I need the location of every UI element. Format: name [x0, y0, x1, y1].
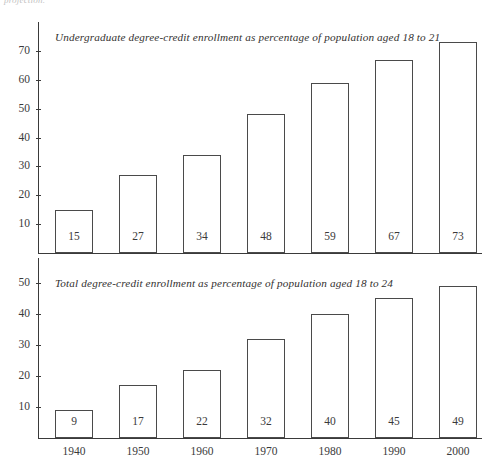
- y-tick-mark: [36, 345, 41, 346]
- bar-value-label: 67: [375, 231, 413, 243]
- y-axis-label: 40: [4, 308, 30, 320]
- y-axis-label: 40: [4, 132, 30, 144]
- y-axis-total: [38, 258, 39, 438]
- bar-value-label: 9: [55, 416, 93, 428]
- bar-value-label: 22: [183, 416, 221, 428]
- y-axis-label: 30: [4, 160, 30, 172]
- bar: [119, 385, 157, 438]
- y-tick-mark: [36, 376, 41, 377]
- y-tick-mark: [36, 80, 41, 81]
- figure-root: projection. Undergraduate degree-credit …: [0, 0, 497, 469]
- bar-value-label: 15: [55, 231, 93, 243]
- bar-value-label: 73: [439, 231, 477, 243]
- y-axis-label: 70: [4, 45, 30, 57]
- y-tick-mark: [36, 109, 41, 110]
- chart-title-total: Total degree-credit enrollment as percen…: [55, 277, 393, 289]
- y-tick-mark: [36, 314, 41, 315]
- bar-value-label: 34: [183, 231, 221, 243]
- chart-title-undergraduate: Undergraduate degree-credit enrollment a…: [55, 31, 440, 43]
- y-tick-mark: [36, 224, 41, 225]
- x-axis-label: 1990: [365, 446, 423, 458]
- y-tick-mark: [36, 51, 41, 52]
- y-tick-mark: [36, 166, 41, 167]
- y-axis-label: 20: [4, 370, 30, 382]
- y-tick-mark: [36, 195, 41, 196]
- x-axis-undergraduate: [38, 253, 482, 254]
- bar-value-label: 49: [439, 416, 477, 428]
- y-axis-label: 30: [4, 339, 30, 351]
- x-axis-label: 1950: [109, 446, 167, 458]
- bar-value-label: 40: [311, 416, 349, 428]
- y-axis-label: 10: [4, 401, 30, 413]
- bar: [375, 60, 413, 253]
- x-axis-label: 1960: [173, 446, 231, 458]
- bar: [311, 83, 349, 253]
- x-axis-total: [38, 438, 482, 439]
- y-tick-mark: [36, 407, 41, 408]
- bar-value-label: 17: [119, 416, 157, 428]
- x-axis-label: 1970: [237, 446, 295, 458]
- bar-value-label: 32: [247, 416, 285, 428]
- bar-value-label: 27: [119, 231, 157, 243]
- bar: [183, 370, 221, 438]
- cut-off-caption-fragment: projection.: [4, 0, 45, 5]
- y-axis-label: 20: [4, 189, 30, 201]
- y-axis-label: 50: [4, 277, 30, 289]
- x-axis-label: 1980: [301, 446, 359, 458]
- bar-value-label: 48: [247, 231, 285, 243]
- y-tick-mark: [36, 283, 41, 284]
- bar-value-label: 45: [375, 416, 413, 428]
- x-axis-label: 1940: [45, 446, 103, 458]
- y-axis-label: 50: [4, 103, 30, 115]
- y-axis-label: 10: [4, 218, 30, 230]
- y-tick-mark: [36, 138, 41, 139]
- x-axis-label: 2000: [429, 446, 487, 458]
- bar: [439, 42, 477, 253]
- y-axis-label: 60: [4, 74, 30, 86]
- bar-value-label: 59: [311, 231, 349, 243]
